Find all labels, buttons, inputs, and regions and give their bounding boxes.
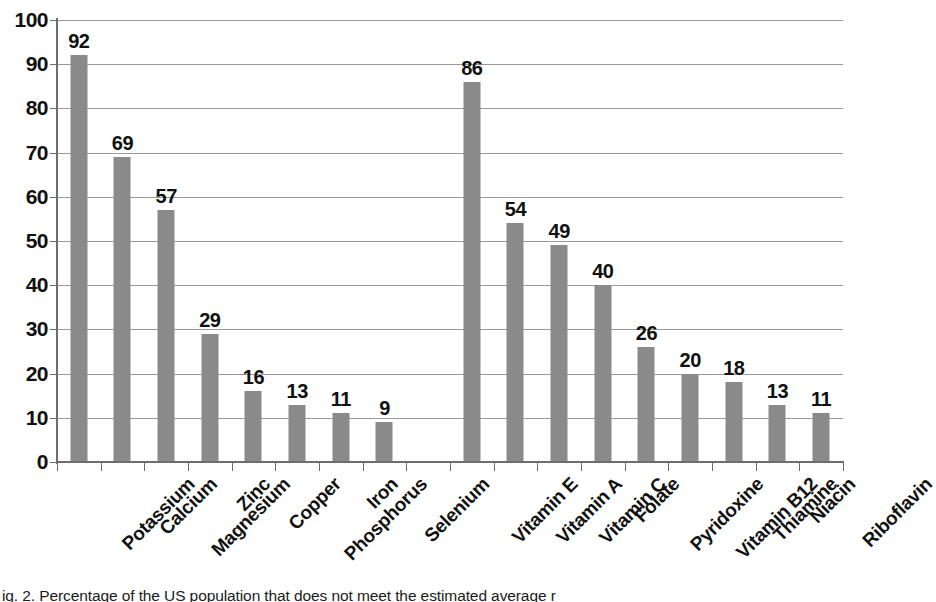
x-axis-category-labels: PotassiumCalciumMagnesiumZincCopperPhosp… — [0, 462, 857, 587]
x-axis-tick — [319, 462, 320, 471]
x-axis-tick — [406, 462, 407, 471]
x-axis-tick — [712, 462, 713, 471]
y-axis-tick-label: 10 — [0, 407, 48, 428]
y-axis-tick-label: 80 — [0, 97, 48, 118]
y-axis-tick-label: 90 — [0, 53, 48, 74]
bar — [813, 413, 830, 462]
y-axis-tick-label: 60 — [0, 186, 48, 207]
y-axis-line — [56, 18, 58, 464]
x-axis-tick — [494, 462, 495, 471]
bar-value-label: 13 — [767, 381, 788, 401]
bar-slot: 9 — [363, 20, 407, 462]
figure-caption-text: ig. 2. Percentage of the US population t… — [2, 587, 556, 602]
bar-slot: 18 — [712, 20, 756, 462]
bar-slot: 13 — [756, 20, 800, 462]
bar-slot: 69 — [101, 20, 145, 462]
bar-slot: 57 — [144, 20, 188, 462]
x-axis-tick — [625, 462, 626, 471]
bar — [725, 382, 742, 462]
bar — [376, 422, 393, 462]
bar-slot: 29 — [188, 20, 232, 462]
bar — [507, 223, 524, 462]
bar-slot: 86 — [450, 20, 494, 462]
plot-area: 926957291613119865449402620181311 — [57, 20, 843, 462]
bar-slot: 26 — [625, 20, 669, 462]
x-axis-tick — [799, 462, 800, 471]
bar-value-label: 11 — [331, 389, 351, 409]
y-axis-tick-label: 100 — [0, 9, 48, 30]
bar-slot: 16 — [232, 20, 276, 462]
x-axis-category-label: Copper — [284, 474, 343, 533]
bar — [289, 405, 306, 462]
bar-slot: 20 — [668, 20, 712, 462]
bar — [201, 334, 218, 462]
y-axis-tick-label: 30 — [0, 318, 48, 339]
x-axis-tick — [668, 462, 669, 471]
x-axis-tick — [581, 462, 582, 471]
bar-value-label: 26 — [636, 323, 657, 343]
bar-value-label: 49 — [549, 221, 570, 241]
bar-slot: 13 — [275, 20, 319, 462]
bar — [463, 82, 480, 462]
x-axis-category-label: Selenium — [421, 474, 492, 545]
figure-caption: ig. 2. Percentage of the US population t… — [2, 586, 855, 602]
bar — [638, 347, 655, 462]
x-axis-tick — [188, 462, 189, 471]
x-axis-tick — [144, 462, 145, 471]
bar-slot: 11 — [319, 20, 363, 462]
x-axis-tick — [756, 462, 757, 471]
bar-value-label: 40 — [592, 261, 613, 281]
bar-value-label: 16 — [243, 367, 264, 387]
bar-value-label: 29 — [199, 310, 220, 330]
x-axis-tick — [275, 462, 276, 471]
x-axis-tick — [537, 462, 538, 471]
bar-value-label: 86 — [461, 58, 482, 78]
bar-slot: 54 — [494, 20, 538, 462]
bar — [769, 405, 786, 462]
x-axis-tick — [843, 462, 844, 471]
x-axis-category-label: Riboflavin — [859, 474, 935, 550]
bar — [114, 157, 131, 462]
bar-value-label: 9 — [379, 398, 390, 418]
bar-slot: 92 — [57, 20, 101, 462]
bar — [594, 285, 611, 462]
bar-slot: 11 — [799, 20, 843, 462]
x-axis-tick — [101, 462, 102, 471]
bar-value-label: 69 — [112, 133, 133, 153]
bar — [682, 374, 699, 462]
bar-value-label: 54 — [505, 199, 526, 219]
x-axis-tick — [450, 462, 451, 471]
bar-value-label: 20 — [680, 350, 701, 370]
bar — [158, 210, 175, 462]
bar-value-label: 57 — [156, 186, 177, 206]
bar-value-label: 18 — [723, 358, 744, 378]
bar-value-label: 13 — [287, 381, 308, 401]
y-axis-tick-label: 50 — [0, 230, 48, 251]
bar — [70, 55, 87, 462]
bar-slot: 49 — [537, 20, 581, 462]
bar — [245, 391, 262, 462]
x-axis-tick — [363, 462, 364, 471]
bar — [332, 413, 349, 462]
y-axis-tick-label: 40 — [0, 274, 48, 295]
y-axis-tick-label: 20 — [0, 363, 48, 384]
x-axis-tick — [232, 462, 233, 471]
x-axis-tick — [57, 462, 58, 471]
bar-value-label: 92 — [68, 31, 89, 51]
bar — [551, 245, 568, 462]
bar-value-label: 11 — [811, 389, 831, 409]
bar-slot: 40 — [581, 20, 625, 462]
y-axis-tick-label: 70 — [0, 142, 48, 163]
